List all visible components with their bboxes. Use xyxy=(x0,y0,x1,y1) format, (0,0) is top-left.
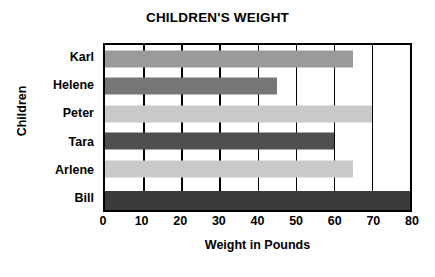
x-tick-label: 70 xyxy=(366,214,380,228)
bar-bill xyxy=(105,191,410,210)
bar-row xyxy=(105,155,410,183)
bar-chart: CHILDREN'S WEIGHT Children KarlHelenePet… xyxy=(0,0,435,277)
x-axis-title: Weight in Pounds xyxy=(103,238,412,252)
y-tick-label: Arlene xyxy=(30,156,99,184)
y-axis-tick-labels: KarlHelenePeterTaraArleneBill xyxy=(30,43,99,212)
x-tick-label: 10 xyxy=(135,214,149,228)
x-tick-label: 0 xyxy=(100,214,107,228)
bar-helene xyxy=(105,78,277,95)
y-tick-label: Karl xyxy=(30,43,99,71)
bar-row xyxy=(105,73,410,101)
chart-title: CHILDREN'S WEIGHT xyxy=(0,10,435,25)
y-tick-label: Bill xyxy=(30,184,99,212)
y-tick-label: Peter xyxy=(30,99,99,127)
x-tick-label: 20 xyxy=(173,214,187,228)
bar-row xyxy=(105,100,410,128)
bar-arlene xyxy=(105,160,353,177)
x-tick-label: 80 xyxy=(405,214,419,228)
x-tick-label: 40 xyxy=(251,214,265,228)
bar-row xyxy=(105,128,410,156)
bar-row xyxy=(105,45,410,73)
bar-karl xyxy=(105,50,353,67)
y-tick-label: Tara xyxy=(30,128,99,156)
y-tick-label: Helene xyxy=(30,71,99,99)
bar-row xyxy=(105,183,410,211)
plot-area xyxy=(103,43,412,212)
x-tick-label: 60 xyxy=(328,214,342,228)
x-tick-label: 30 xyxy=(212,214,226,228)
bars-layer xyxy=(105,45,410,210)
y-axis-title: Children xyxy=(15,66,29,156)
bar-peter xyxy=(105,105,372,122)
bar-tara xyxy=(105,133,334,150)
x-tick-label: 50 xyxy=(289,214,303,228)
x-axis-tick-labels: 01020304050607080 xyxy=(103,214,412,232)
